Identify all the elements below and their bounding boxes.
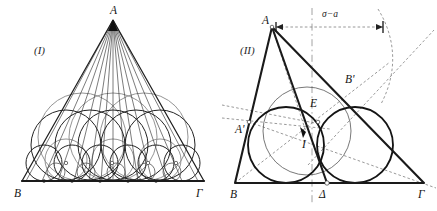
dimension-label-sigma-minus-a: σ−a — [322, 9, 338, 19]
geometry-figure: (I) A B Γ σ−a — [0, 0, 437, 211]
panel-2-dimension: σ−a — [276, 9, 383, 33]
panel-2-vertex-b-label: B — [230, 188, 237, 200]
panel-2-incircle — [263, 87, 351, 175]
panel-2-vertex-a-label: A — [261, 14, 270, 26]
panel-1-group: (I) A B Γ — [14, 4, 204, 199]
panel-2-vertex-gamma-label: Γ — [417, 188, 425, 200]
dimension-arrow-right — [376, 24, 383, 30]
panel-1-cevian-fan — [26, 20, 198, 181]
panel-2-dashed-aprime-to-gamma — [249, 122, 436, 188]
panel-2-point-aprime-label: A' — [234, 123, 245, 135]
panel-1-vertex-b-label: B — [14, 187, 21, 199]
dimension-arrow-left — [276, 24, 283, 30]
panel-1-vertex-a-label: A — [109, 4, 118, 16]
panel-2-point-delta-label: Δ — [318, 188, 326, 200]
panel-2-group: σ−a — [222, 8, 436, 203]
panel-2-right-circle — [317, 107, 393, 183]
panel-2-point-bprime-label: B' — [345, 73, 355, 85]
panel-2-point-aprime-dot — [247, 120, 251, 124]
panel-2-cevian-a-delta — [272, 27, 327, 183]
panel-2-point-a-dot — [270, 25, 274, 29]
panel-1-vertex-gamma-label: Γ — [195, 187, 203, 199]
panel-2-point-e-dot — [316, 120, 320, 124]
panel-2-dashed-b-to-bprime — [235, 62, 390, 183]
panel-2-caption: (II) — [240, 44, 255, 57]
panel-2-point-i-label: I — [301, 138, 307, 150]
panel-2-triangle — [235, 27, 424, 183]
panel-1-caption: (I) — [34, 44, 45, 57]
panel-2-point-delta-dot — [325, 181, 329, 185]
panel-2-point-e-label: E — [309, 97, 317, 109]
figure-canvas: (I) A B Γ σ−a — [0, 0, 437, 211]
panel-2-construction-arc — [378, 9, 393, 104]
panel-2-external-bisector-ray — [308, 30, 434, 165]
